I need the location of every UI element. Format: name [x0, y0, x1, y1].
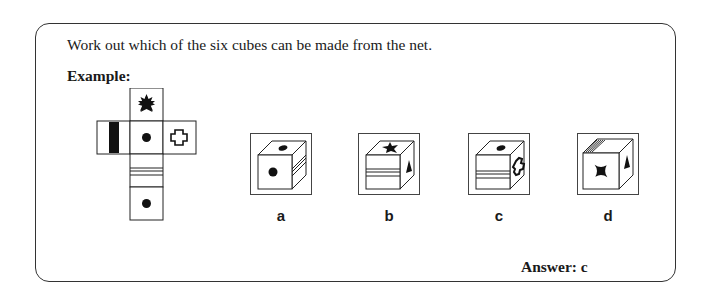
- cube-option-b[interactable]: [358, 133, 420, 195]
- net-face-right: [163, 121, 196, 154]
- cube-option-a[interactable]: [250, 133, 312, 195]
- example-label: Example:: [67, 67, 131, 85]
- black-dot-icon: [142, 199, 151, 208]
- cube-option-d[interactable]: [577, 133, 639, 195]
- question-instruction: Work out which of the six cubes can be m…: [67, 36, 432, 54]
- answer-text: Answer: c: [521, 258, 588, 276]
- option-label-a: a: [261, 207, 301, 224]
- option-label-b: b: [369, 207, 409, 224]
- cube-option-c[interactable]: [468, 133, 530, 195]
- vertical-black-bar-icon: [109, 122, 119, 153]
- option-label-d: d: [588, 207, 628, 224]
- option-label-c: c: [479, 207, 519, 224]
- black-dot-icon: [142, 133, 151, 142]
- cube-net: [95, 88, 225, 228]
